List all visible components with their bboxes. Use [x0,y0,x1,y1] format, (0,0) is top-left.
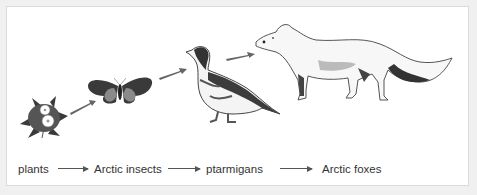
label-arctic-foxes: Arctic foxes [322,161,381,177]
butterfly-icon [88,77,152,103]
arctic-fox-icon [256,25,452,100]
arrow-icon [58,168,88,169]
label-plants: plants [18,161,49,177]
arrow-icon [226,52,255,61]
food-chain-illustration [0,0,477,160]
arrow-icon [168,168,200,169]
arrow-icon [280,168,312,169]
label-ptarmigans: ptarmigans [206,161,263,177]
arrow-icon [70,100,96,115]
arrow-icon [159,68,187,80]
label-arctic-insects: Arctic insects [94,161,162,177]
flower-icon [20,96,68,138]
